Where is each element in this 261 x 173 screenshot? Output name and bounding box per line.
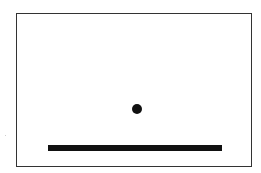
artifact-dot [5,135,6,136]
ball [132,104,142,114]
game-field[interactable] [16,13,252,167]
paddle[interactable] [48,145,222,151]
